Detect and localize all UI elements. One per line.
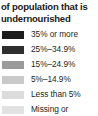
map-legend: of population that is undernourished 35%… [0, 0, 98, 116]
legend-color-swatch [2, 31, 24, 39]
legend-item: 35% or more [0, 27, 98, 42]
legend-item: 15%–24.9% [0, 57, 98, 72]
legend-color-swatch [2, 106, 24, 114]
legend-item-label: Less than 5% [31, 90, 81, 99]
legend-item-label: 5%–14.9% [31, 75, 71, 84]
legend-item-label: Missing or [31, 105, 68, 114]
legend-color-swatch [2, 76, 24, 84]
legend-item-label: 15%–24.9% [31, 60, 75, 69]
legend-item: 5%–14.9% [0, 72, 98, 87]
legend-entry-list: 35% or more 25%–34.9% 15%–24.9% 5%–14.9%… [0, 27, 98, 116]
legend-item: Less than 5% [0, 87, 98, 102]
legend-item: 25%–34.9% [0, 42, 98, 57]
legend-color-swatch [2, 46, 24, 54]
legend-color-swatch [2, 61, 24, 69]
legend-title: of population that is undernourished [0, 0, 98, 24]
legend-title-line-1: of population that is [1, 1, 98, 13]
legend-item-label: 25%–34.9% [31, 45, 75, 54]
legend-item-label: 35% or more [31, 30, 78, 39]
legend-title-line-2: undernourished [1, 13, 98, 25]
legend-item: Missing or [0, 102, 98, 116]
legend-color-swatch [2, 91, 24, 99]
